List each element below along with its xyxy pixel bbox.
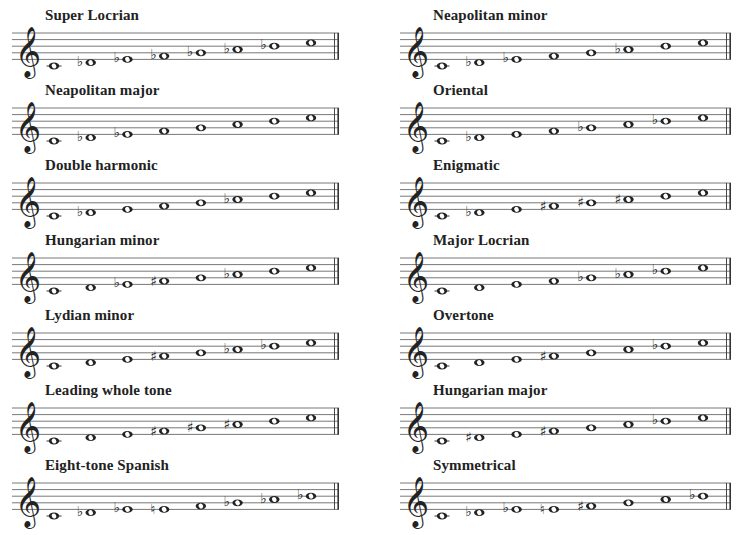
whole-note — [623, 346, 633, 353]
whole-note: ♭ — [652, 111, 671, 127]
treble-clef-icon: 𝄞 — [15, 25, 41, 79]
whole-note — [511, 431, 521, 438]
whole-note: ♭ — [113, 499, 132, 515]
whole-note: ♭ — [652, 261, 671, 277]
flat-icon: ♭ — [224, 40, 231, 56]
whole-note — [511, 356, 521, 363]
scale-hungarian-minor: Hungarian minor𝄞♭♯♭ — [12, 232, 343, 304]
whole-note: ♭ — [187, 43, 206, 59]
scale-neapolitan-minor: Neapolitan minor𝄞♭♭♭ — [400, 7, 735, 79]
staff-lines — [12, 408, 339, 434]
flat-icon: ♭ — [260, 490, 267, 506]
staff: 𝄞♭♭♭ — [400, 82, 735, 154]
staff-lines — [400, 408, 731, 434]
whole-note — [549, 278, 559, 285]
sharp-icon: ♯ — [150, 423, 157, 439]
whole-note — [47, 513, 62, 520]
flat-icon: ♭ — [465, 503, 472, 519]
whole-note: ♯ — [150, 348, 169, 364]
sharp-icon: ♯ — [465, 429, 472, 445]
flat-icon: ♭ — [503, 49, 510, 65]
staff-lines — [12, 108, 339, 134]
treble-clef-icon: 𝄞 — [15, 400, 41, 454]
sharp-icon: ♯ — [614, 191, 621, 207]
whole-note — [47, 138, 62, 145]
whole-note — [306, 115, 316, 122]
flat-icon: ♭ — [652, 111, 659, 127]
whole-note — [549, 128, 559, 135]
staff: 𝄞♭♭♮♯♭ — [400, 457, 735, 529]
treble-clef-icon: 𝄞 — [15, 250, 41, 304]
whole-note: ♯ — [150, 273, 169, 289]
flat-icon: ♭ — [614, 40, 621, 56]
scale-super-locrian: Super Locrian𝄞♭♭♭♭♭♭ — [12, 7, 343, 79]
sharp-icon: ♯ — [540, 423, 547, 439]
whole-note: ♭ — [77, 203, 96, 219]
whole-note: ♯ — [150, 423, 169, 439]
whole-note — [269, 193, 279, 200]
staff: 𝄞♭♭ — [12, 157, 343, 229]
whole-note — [306, 40, 316, 47]
whole-note: ♯ — [577, 498, 596, 514]
whole-note: ♭ — [465, 503, 484, 519]
sharp-icon: ♯ — [540, 348, 547, 364]
whole-note: ♯ — [540, 348, 559, 364]
whole-note: ♯ — [577, 194, 596, 210]
staff-lines — [12, 33, 339, 59]
whole-note: ♭ — [224, 493, 243, 509]
whole-note: ♯ — [540, 198, 559, 214]
whole-note: ♯ — [465, 429, 484, 445]
scale-lydian-minor: Lydian minor𝄞♯♭♭ — [12, 307, 343, 379]
treble-clef-icon: 𝄞 — [403, 25, 429, 79]
staff: 𝄞♭♯♭ — [12, 232, 343, 304]
flat-icon: ♭ — [187, 43, 194, 59]
staff: 𝄞♭♭♭ — [400, 232, 735, 304]
staff-lines — [400, 333, 731, 359]
whole-note — [435, 213, 450, 220]
flat-icon: ♭ — [224, 493, 231, 509]
treble-clef-icon: 𝄞 — [15, 100, 41, 154]
treble-clef-icon: 𝄞 — [15, 175, 41, 229]
flat-icon: ♭ — [113, 274, 120, 290]
treble-clef-icon: 𝄞 — [403, 100, 429, 154]
whole-note — [47, 63, 62, 70]
staff-lines — [12, 183, 339, 209]
whole-note: ♭ — [689, 486, 708, 502]
flat-icon: ♭ — [503, 499, 510, 515]
whole-note — [511, 206, 521, 213]
flat-icon: ♭ — [77, 503, 84, 519]
treble-clef-icon: 𝄞 — [403, 175, 429, 229]
whole-note — [698, 190, 708, 197]
staff: 𝄞♭♭♭ — [400, 7, 735, 79]
staff-lines — [12, 258, 339, 284]
whole-note — [435, 63, 450, 70]
scale-overtone: Overtone𝄞♯♭ — [400, 307, 735, 379]
whole-note — [86, 284, 96, 291]
whole-note — [511, 131, 521, 138]
flat-icon: ♭ — [113, 49, 120, 65]
whole-note — [435, 438, 450, 445]
whole-note — [196, 199, 206, 206]
flat-icon: ♭ — [150, 46, 157, 62]
flat-icon: ♭ — [113, 499, 120, 515]
scale-eight-tone-spanish: Eight-tone Spanish𝄞♭♭♮♭♭♭ — [12, 457, 343, 529]
whole-note — [435, 138, 450, 145]
sharp-icon: ♯ — [187, 419, 194, 435]
whole-note — [435, 363, 450, 370]
whole-note — [474, 359, 484, 366]
flat-icon: ♭ — [224, 340, 231, 356]
whole-note: ♭ — [77, 503, 96, 519]
scale-major-locrian: Major Locrian𝄞♭♭♭ — [400, 232, 735, 304]
whole-note: ♭ — [503, 499, 522, 515]
flat-icon: ♭ — [652, 336, 659, 352]
staff-lines — [400, 483, 731, 509]
staff: 𝄞♭♯♯♯ — [400, 157, 735, 229]
natural-icon: ♮ — [150, 501, 155, 517]
scale-symmetrical: Symmetrical𝄞♭♭♮♯♭ — [400, 457, 735, 529]
whole-note — [623, 499, 633, 506]
whole-note: ♭ — [465, 128, 484, 144]
staff: 𝄞♭♭♭♭♭♭ — [12, 7, 343, 79]
staff-lines — [400, 33, 731, 59]
flat-icon: ♭ — [577, 268, 584, 284]
whole-note — [698, 115, 708, 122]
